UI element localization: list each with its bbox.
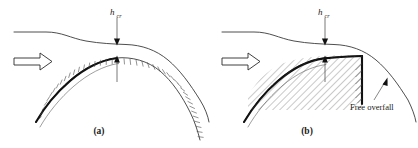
flow-direction-arrow-b[interactable] (222, 53, 260, 70)
critical-depth-subscript-b: cr (325, 13, 331, 19)
panel-caption-b: (b) (301, 126, 313, 137)
critical-depth-label-a: h (110, 7, 115, 17)
flow-direction-arrow-a[interactable] (14, 53, 52, 70)
panel-a: h cr (a) (14, 7, 209, 140)
panel-b: h cr Free overfall (b) (222, 7, 416, 137)
weir-upstream-face-a (36, 58, 116, 122)
panel-caption-a: (a) (93, 126, 104, 137)
figure-container: h cr (a) (0, 0, 418, 148)
weir-hatching-b (244, 52, 366, 110)
critical-depth-subscript-a: cr (117, 13, 123, 19)
free-overfall-annotation: Free overfall (350, 102, 394, 112)
critical-depth-label-b: h (318, 7, 323, 17)
annotation-leader-arrowhead-b (383, 78, 388, 87)
figure-svg: h cr (a) (0, 0, 418, 148)
